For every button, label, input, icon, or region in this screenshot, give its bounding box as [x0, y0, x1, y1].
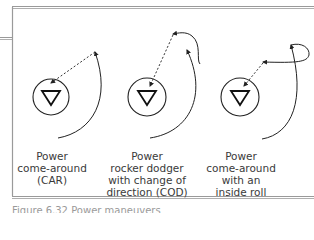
maneuver-roll-diagram — [221, 44, 309, 139]
label-line: rocker dodger — [99, 162, 195, 174]
maneuver-cod-label: Power rocker dodger with change of direc… — [99, 150, 195, 198]
maneuver-car-label: Power come-around (CAR) — [4, 150, 100, 186]
maneuver-roll-label: Power come-around with an inside roll — [193, 150, 289, 198]
label-line: come-around — [4, 162, 100, 174]
label-line: (CAR) — [4, 174, 100, 186]
solid-path-arrow — [58, 52, 101, 138]
player-circle-icon — [128, 78, 166, 116]
label-line: Power — [4, 150, 100, 162]
dotted-path-arrow — [244, 63, 263, 86]
down-triangle-icon — [231, 91, 249, 105]
player-circle-icon — [221, 78, 259, 116]
down-triangle-icon — [138, 91, 156, 105]
label-line: Power — [193, 150, 289, 162]
label-line: Power — [99, 150, 195, 162]
label-line: with an — [193, 174, 289, 186]
label-line: inside roll — [193, 186, 289, 198]
label-line: with change of — [99, 174, 195, 186]
solid-loop-arrow — [263, 44, 309, 62]
solid-loop-arrow — [173, 33, 200, 64]
solid-path-arrow — [150, 50, 196, 138]
maneuver-cod-diagram — [128, 33, 200, 138]
down-triangle-icon — [42, 91, 60, 105]
player-circle-icon — [33, 79, 69, 115]
figure-caption: Figure 6.32 Power maneuvers — [12, 205, 161, 213]
dotted-path-arrow — [51, 52, 95, 83]
solid-path-arrow — [262, 45, 297, 139]
label-line: come-around — [193, 162, 289, 174]
label-line: direction (COD) — [99, 186, 195, 198]
dotted-path-arrow — [150, 35, 173, 86]
maneuver-car-diagram — [33, 52, 101, 138]
